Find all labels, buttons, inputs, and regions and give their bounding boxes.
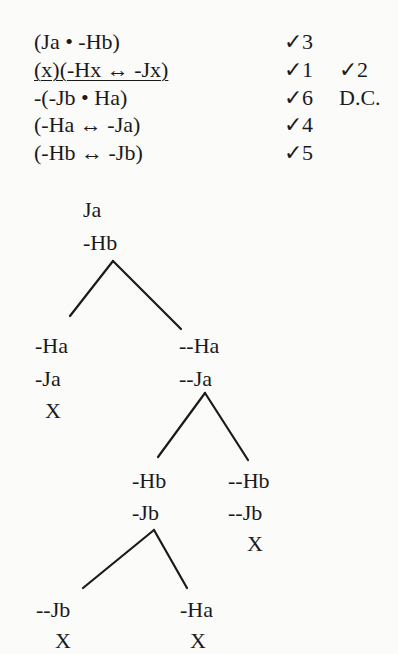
leaf-neg-ha: -Ha <box>180 599 213 621</box>
subbranch-right-closed-x: X <box>247 533 263 555</box>
subbranch-dneg-hb: --Hb <box>228 470 270 492</box>
subbranch-dneg-jb: --Jb <box>228 502 262 524</box>
tree-branches <box>0 0 398 654</box>
tree-trunk-ja: Ja <box>83 199 101 221</box>
subbranch-neg-jb: -Jb <box>132 502 159 524</box>
leaf-left-closed-x: X <box>55 630 71 652</box>
branch-left-closed-x: X <box>45 400 61 422</box>
leaf-dneg-jb: --Jb <box>36 599 70 621</box>
branch-right-dneg-ja: --Ja <box>179 368 212 390</box>
branch-left-neg-ja: -Ja <box>35 368 61 390</box>
subbranch-neg-hb: -Hb <box>132 470 166 492</box>
tree-trunk-neg-hb: -Hb <box>83 232 117 254</box>
branch-right-dneg-ha: --Ha <box>179 335 219 357</box>
branch-left-neg-ha: -Ha <box>35 335 68 357</box>
leaf-right-closed-x: X <box>190 630 206 652</box>
